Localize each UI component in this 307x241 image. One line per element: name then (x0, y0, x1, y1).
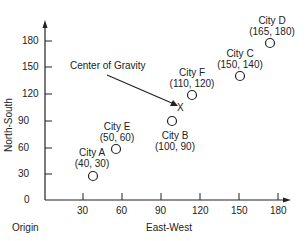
city-d-label: City D (165, 180) (249, 15, 295, 37)
x-tick-120: 120 (192, 205, 209, 216)
city-e-marker (112, 145, 121, 154)
city-c-label: City C (150, 140) (217, 48, 263, 70)
city-d-marker (266, 39, 275, 48)
center-of-gravity-marker: X (177, 102, 184, 113)
y-tick-30: 30 (18, 168, 29, 179)
city-b-marker (168, 117, 177, 126)
y-tick-0: 0 (24, 194, 30, 205)
city-a-marker (89, 172, 98, 181)
x-axis-arrow-icon (283, 198, 291, 203)
x-tick-150: 150 (231, 205, 248, 216)
city-e-label: City E (50, 60) (100, 121, 134, 143)
x-axis-label: East-West (146, 222, 192, 233)
y-tick-90: 90 (18, 115, 29, 126)
origin-label: Origin (12, 222, 39, 233)
y-tick-180: 180 (22, 35, 39, 46)
city-a-label: City A (40, 30) (75, 147, 109, 169)
y-tick-60: 60 (18, 142, 29, 153)
y-axis-arrow-icon (43, 20, 48, 28)
center-of-gravity-chart: 0 30 60 90 120 150 180 30 60 90 120 150 … (0, 0, 307, 241)
y-tick-150: 150 (22, 61, 39, 72)
x-tick-60: 60 (116, 205, 127, 216)
city-c-marker (236, 72, 245, 81)
y-tick-120: 120 (22, 88, 39, 99)
city-f-label: City F (110, 120) (170, 67, 215, 89)
x-tick-180: 180 (270, 205, 287, 216)
city-f-marker (188, 91, 197, 100)
city-b-label: City B (100, 90) (155, 130, 195, 152)
x-tick-90: 90 (155, 205, 166, 216)
x-tick-30: 30 (77, 205, 88, 216)
center-of-gravity-label: Center of Gravity (70, 60, 146, 71)
y-axis-label: North-South (3, 98, 14, 152)
